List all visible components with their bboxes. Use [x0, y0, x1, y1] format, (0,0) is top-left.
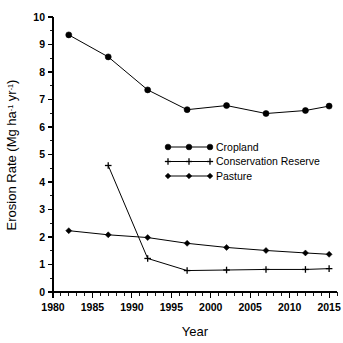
data-point-diamond: [105, 232, 111, 238]
data-point-circle: [207, 144, 213, 150]
x-tick-label: 1980: [41, 301, 65, 313]
legend-label: Conservation Reserve: [216, 155, 320, 167]
x-tick-label: 2000: [199, 301, 223, 313]
y-tick-label: 5: [39, 148, 45, 160]
data-point-diamond: [302, 250, 308, 256]
y-axis: 012345678910: [33, 11, 53, 298]
chart-legend: CroplandConservation ReservePasture: [165, 141, 320, 182]
x-tick-label: 1990: [120, 301, 144, 313]
series-pasture: [66, 228, 332, 258]
x-tick-label: 1985: [81, 301, 105, 313]
y-axis-title: Erosion Rate (Mg ha-1 yr-1): [4, 80, 19, 231]
x-axis-title: Year: [182, 324, 209, 339]
x-axis: 19801985199019952000200520102015: [41, 292, 341, 313]
data-point-circle: [302, 108, 308, 114]
legend-entry-conservation-reserve: Conservation Reserve: [165, 155, 320, 167]
y-tick-label: 2: [39, 231, 45, 243]
data-point-diamond: [224, 244, 230, 250]
data-point-circle: [66, 32, 72, 38]
data-point-diamond: [326, 251, 332, 257]
data-point-diamond: [66, 228, 72, 234]
y-tick-label: 3: [39, 203, 45, 215]
y-tick-label: 9: [39, 38, 45, 50]
data-point-circle: [224, 103, 230, 109]
chart-canvas: 012345678910 198019851990199520002005201…: [0, 0, 343, 343]
x-tick-label: 2010: [278, 301, 302, 313]
series-polyline: [69, 35, 329, 114]
legend-entry-cropland: Cropland: [165, 141, 259, 153]
y-tick-label: 1: [39, 258, 45, 270]
data-point-circle: [105, 54, 111, 60]
data-point-circle: [186, 144, 192, 150]
data-point-diamond: [165, 173, 171, 179]
data-series-layer: [66, 32, 333, 274]
y-tick-label: 10: [33, 11, 45, 23]
y-tick-label: 0: [39, 286, 45, 298]
data-point-diamond: [184, 240, 190, 246]
y-tick-label: 8: [39, 66, 45, 78]
legend-label: Pasture: [216, 170, 252, 182]
erosion-rate-chart: 012345678910 198019851990199520002005201…: [0, 0, 343, 343]
data-point-diamond: [145, 235, 151, 241]
data-point-diamond: [186, 173, 192, 179]
y-tick-label: 4: [39, 176, 45, 188]
data-point-diamond: [263, 247, 269, 253]
y-tick-label: 6: [39, 121, 45, 133]
legend-label: Cropland: [216, 141, 259, 153]
data-point-diamond: [207, 173, 213, 179]
data-point-circle: [165, 144, 171, 150]
series-cropland: [66, 32, 332, 117]
data-point-circle: [263, 111, 269, 117]
legend-entry-pasture: Pasture: [165, 170, 252, 182]
x-tick-label: 2015: [317, 301, 341, 313]
x-tick-label: 1995: [160, 301, 184, 313]
data-point-circle: [326, 103, 332, 109]
svg-text:Erosion Rate (Mg ha-1 yr-1): Erosion Rate (Mg ha-1 yr-1): [4, 80, 19, 231]
svg-text:Year: Year: [182, 324, 209, 339]
x-tick-label: 2005: [239, 301, 263, 313]
y-tick-label: 7: [39, 93, 45, 105]
data-point-circle: [184, 107, 190, 113]
data-point-circle: [145, 87, 151, 93]
